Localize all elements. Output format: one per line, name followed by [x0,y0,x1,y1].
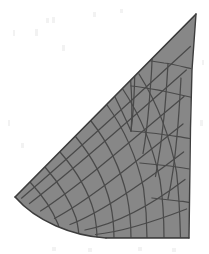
scan-speck-0 [46,18,49,23]
scan-speck-9 [52,247,56,251]
mesh-figure: Structured computational mesh over wedge… [0,0,209,254]
scan-speck-13 [200,120,203,126]
scan-speck-10 [88,248,92,252]
scan-speck-12 [172,248,176,252]
scan-speck-1 [52,17,55,23]
scan-speck-11 [138,247,142,251]
scan-speck-4 [62,45,65,51]
scan-speck-14 [202,60,204,65]
scan-speck-2 [13,30,15,36]
scan-speck-8 [21,143,24,148]
scan-speck-3 [35,29,38,36]
scan-speck-6 [120,9,123,13]
scan-speck-7 [8,120,10,126]
scan-speck-5 [93,12,96,17]
mesh-domain-region [15,14,196,238]
mesh-canvas: Structured computational mesh over wedge… [0,0,209,254]
